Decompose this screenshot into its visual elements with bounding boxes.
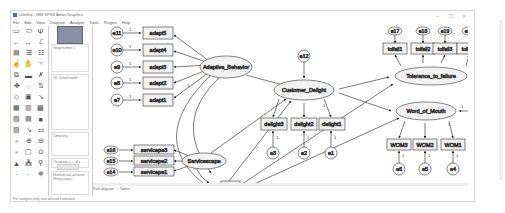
observed-tolfail3[interactable]: tolfail3	[433, 43, 457, 54]
error-term-icon[interactable]: ℰ	[36, 38, 45, 46]
variables-list-icon[interactable]: ☰	[24, 49, 33, 57]
rectangle-icon[interactable]: ▭	[12, 27, 21, 35]
latent-indicator-icon[interactable]: Ψ	[36, 27, 45, 35]
loupe-icon[interactable]: ⊙	[36, 148, 45, 156]
observed-adapt4[interactable]: adapt4	[143, 44, 173, 56]
tab-path-diagram[interactable]: Path diagram	[93, 187, 114, 191]
menu-tools[interactable]: Tools	[89, 19, 98, 26]
error-e19[interactable]: e19	[438, 27, 452, 35]
shape-icon[interactable]: ✥	[12, 82, 21, 90]
latent-customer-delight[interactable]: Customer_Delight	[274, 80, 334, 100]
observed-delight3[interactable]: delight3	[261, 118, 287, 130]
view-text-icon[interactable]: ▤	[24, 115, 33, 123]
error-e16[interactable]: e16	[104, 146, 118, 154]
error-e8[interactable]: e8	[111, 77, 123, 89]
ellipse-icon[interactable]: ⬭	[24, 27, 33, 35]
error-e5[interactable]: e5	[419, 163, 431, 175]
observed-servicape3[interactable]: servicape3	[134, 145, 174, 154]
observed-wom3[interactable]: WOM3	[387, 139, 411, 150]
drag-props-icon[interactable]: ↘	[24, 126, 33, 134]
reflect-icon[interactable]: ⇅	[36, 82, 45, 90]
latent-word-of-mouth[interactable]: Word_of_Mouth	[396, 102, 456, 120]
scroll-icon[interactable]: ▣	[24, 93, 33, 101]
error-e4[interactable]: e4	[447, 163, 459, 175]
rotate-icon[interactable]: ◌	[24, 82, 33, 90]
observed-adapt2[interactable]: adapt2	[143, 77, 173, 89]
select-one-icon[interactable]: ☝	[12, 60, 21, 68]
double-arrow-icon[interactable]: ↔	[24, 38, 33, 46]
error-e12[interactable]: e12	[298, 50, 310, 62]
observed-adapt5[interactable]: adapt5	[143, 27, 173, 39]
observed-tolfail1[interactable]: tolfail1	[383, 43, 407, 54]
horizontal-scrollbar[interactable]	[93, 183, 468, 186]
error-e3[interactable]: e3	[267, 147, 279, 159]
multigroup-icon[interactable]: ⁂	[24, 159, 33, 167]
observed-wom2[interactable]: WOM2	[413, 139, 437, 150]
menu-diagram[interactable]: Diagram	[50, 19, 65, 26]
groups-panel[interactable]: Group number 1	[51, 44, 89, 72]
zoom-area-icon[interactable]: ⌕	[12, 137, 21, 145]
data-file-icon[interactable]: ▦	[12, 104, 21, 112]
models-panel[interactable]: OK: Default model	[51, 74, 89, 130]
zoom-out-icon[interactable]: ⊖	[36, 137, 45, 145]
error-e6[interactable]: e6	[393, 163, 405, 175]
vertical-scrollbar[interactable]	[499, 20, 503, 180]
latent-servicescape[interactable]: Servicescape	[182, 153, 226, 169]
menu-help[interactable]: Help	[122, 19, 130, 26]
path-diagram-canvas[interactable]: e11 e10 e9 e8 e7 adapt5 adapt4 adapt3 ad…	[93, 26, 468, 184]
error-e15[interactable]: e15	[104, 157, 118, 165]
move-icon[interactable]: ▬	[24, 71, 33, 79]
panel-button[interactable]	[57, 164, 79, 170]
calculate-icon[interactable]: ▩	[36, 104, 45, 112]
observed-delight1[interactable]: delight1	[319, 118, 345, 130]
fit-page-icon[interactable]: ▢	[24, 148, 33, 156]
show-page-icon[interactable]: ⌕	[12, 148, 21, 156]
error-e14[interactable]: e14	[104, 168, 118, 176]
data-variables-icon[interactable]: ☷	[36, 49, 45, 57]
move-params-icon[interactable]: ◇	[12, 93, 21, 101]
error-e11[interactable]: e11	[111, 27, 123, 39]
object-props-icon[interactable]: ▨	[12, 126, 21, 134]
save-icon[interactable]: ■	[36, 115, 45, 123]
title-icon[interactable]: ▤	[12, 49, 21, 57]
observed-delight2[interactable]: delight2	[291, 118, 317, 130]
select-all-icon[interactable]: ✋	[24, 60, 33, 68]
redo-icon[interactable]: ·	[24, 170, 33, 178]
latent-adaptive-behavior[interactable]: Adaptive_Behavior	[200, 56, 252, 78]
observed-adapt1[interactable]: adapt1	[143, 94, 173, 106]
menu-file[interactable]: File	[13, 19, 19, 26]
menu-view[interactable]: View	[36, 19, 45, 26]
error-e9[interactable]: e9	[111, 61, 123, 73]
touch-up-icon[interactable]: ↘	[36, 93, 45, 101]
copy-icon[interactable]: ▧	[12, 115, 21, 123]
erase-icon[interactable]: ✗	[36, 71, 45, 79]
menu-plugins[interactable]: Plugins	[104, 19, 117, 26]
analysis-props-icon[interactable]: ▥	[24, 104, 33, 112]
error-e20[interactable]: e20	[462, 27, 468, 35]
error-e18[interactable]: e18	[416, 27, 430, 35]
error-e7[interactable]: e7	[111, 94, 123, 106]
observed-tolfail4[interactable]: tolfail4	[457, 43, 468, 54]
undo-icon[interactable]: ·	[12, 170, 21, 178]
observed-servicape1[interactable]: servicape1	[134, 167, 174, 176]
tab-tables[interactable]: Tables	[120, 187, 130, 191]
path-diagram-thumbnail[interactable]	[57, 26, 83, 44]
zoom-in-icon[interactable]: ⊕	[24, 137, 33, 145]
preserve-symmetry-icon[interactable]: ⚏	[36, 126, 45, 134]
bayesian-icon[interactable]: ▲	[12, 159, 21, 167]
observed-tolfail2[interactable]: tolfail2	[411, 43, 435, 54]
arrow-icon[interactable]: ←	[12, 38, 21, 46]
observed-servicape2[interactable]: servicape2	[134, 156, 174, 165]
latent-tolerance-to-failure[interactable]: Tolerance_to_failure	[395, 67, 467, 85]
deselect-icon[interactable]: ☜	[36, 60, 45, 68]
print-icon[interactable]: ⚲	[36, 159, 45, 167]
error-e1[interactable]: e1	[325, 147, 337, 159]
menu-edit[interactable]: Edit	[24, 19, 31, 26]
observed-wom1[interactable]: WOM1	[441, 139, 465, 150]
duplicate-icon[interactable]: ⧉	[12, 71, 21, 79]
error-e17[interactable]: e17	[388, 27, 402, 35]
observed-adapt3[interactable]: adapt3	[143, 61, 173, 73]
specification-search-icon[interactable]: ⛯	[36, 170, 45, 178]
error-e10[interactable]: e10	[111, 44, 123, 56]
error-e2[interactable]: e2	[298, 147, 310, 159]
